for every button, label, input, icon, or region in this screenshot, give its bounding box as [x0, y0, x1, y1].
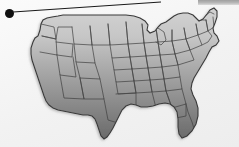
callout-leader-line [13, 2, 161, 12]
callout-marker-dot[interactable] [5, 9, 14, 18]
us-map [0, 0, 239, 147]
figure-canvas [0, 0, 239, 147]
